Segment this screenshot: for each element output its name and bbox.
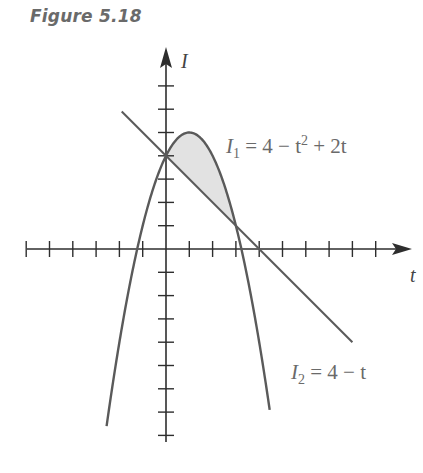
line-label: I2 = 4 − t xyxy=(290,360,366,387)
plot-area: I t I1 = 4 − t2 + 2t I2 = 4 − t xyxy=(0,0,423,473)
y-axis-label: I xyxy=(180,50,189,72)
parabola-label: I1 = 4 − t2 + 2t xyxy=(225,133,347,161)
x-axis-label: t xyxy=(410,264,416,286)
